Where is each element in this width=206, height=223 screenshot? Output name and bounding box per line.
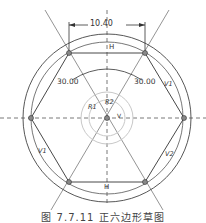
label-v: V <box>117 112 121 119</box>
figure-caption: 图 7.7.11 正六边形草图 <box>0 209 206 223</box>
constraint-horizontal-bottom: H <box>104 183 109 191</box>
label-v2-right: V2 <box>165 150 174 158</box>
dimension-angle-right: 30.00 <box>134 77 155 86</box>
label-v1-top-right: V1 <box>164 80 173 88</box>
dimension-angle-left: 30.00 <box>57 77 78 86</box>
constraint-horizontal-top: H <box>109 43 114 51</box>
label-r1: R1 <box>88 103 97 111</box>
hexagon-sketch-diagram <box>0 0 206 223</box>
label-v1-left: V1 <box>38 147 47 155</box>
label-r2: R2 <box>105 98 114 106</box>
dimension-width: 10.40 <box>90 19 113 28</box>
